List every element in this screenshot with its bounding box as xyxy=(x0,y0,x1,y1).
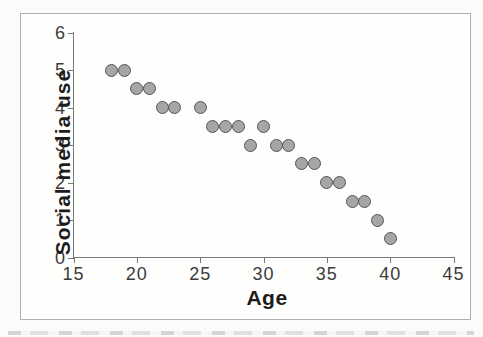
data-point xyxy=(358,195,371,208)
data-point xyxy=(308,157,321,170)
data-point xyxy=(320,176,333,189)
x-tick-mark xyxy=(264,257,265,263)
data-point xyxy=(118,64,131,77)
data-point xyxy=(105,64,118,77)
x-tick-label: 40 xyxy=(370,264,410,285)
y-tick-mark xyxy=(68,33,74,34)
x-tick-mark xyxy=(200,257,201,263)
x-tick-label: 35 xyxy=(307,264,347,285)
x-tick-label: 20 xyxy=(117,264,157,285)
data-point xyxy=(143,82,156,95)
data-point xyxy=(168,101,181,114)
data-point xyxy=(346,195,359,208)
cropped-text-artifact xyxy=(8,331,474,335)
x-tick-label: 45 xyxy=(434,264,474,285)
x-tick-mark xyxy=(327,257,328,263)
data-point xyxy=(257,120,270,133)
x-tick-label: 30 xyxy=(244,264,284,285)
y-tick-label: 6 xyxy=(35,23,65,44)
data-point xyxy=(295,157,308,170)
data-point xyxy=(206,120,219,133)
x-tick-mark xyxy=(454,257,455,263)
data-point xyxy=(156,101,169,114)
data-point xyxy=(244,139,257,152)
plot-area: 15202530354045 0123456 Social media use … xyxy=(21,14,470,319)
x-axis-title: Age xyxy=(207,286,327,310)
data-point xyxy=(270,139,283,152)
x-tick-mark xyxy=(137,257,138,263)
data-point xyxy=(282,139,295,152)
chart-frame: 15202530354045 0123456 Social media use … xyxy=(20,13,471,320)
data-point xyxy=(333,176,346,189)
data-point xyxy=(232,120,245,133)
data-point xyxy=(219,120,232,133)
x-tick-label: 25 xyxy=(180,264,220,285)
data-point xyxy=(194,101,207,114)
x-tick-mark xyxy=(390,257,391,263)
y-axis-title: Social media use xyxy=(51,62,75,262)
data-point xyxy=(130,82,143,95)
data-point xyxy=(384,232,397,245)
scanned-page: 15202530354045 0123456 Social media use … xyxy=(0,0,483,337)
data-point xyxy=(371,214,384,227)
